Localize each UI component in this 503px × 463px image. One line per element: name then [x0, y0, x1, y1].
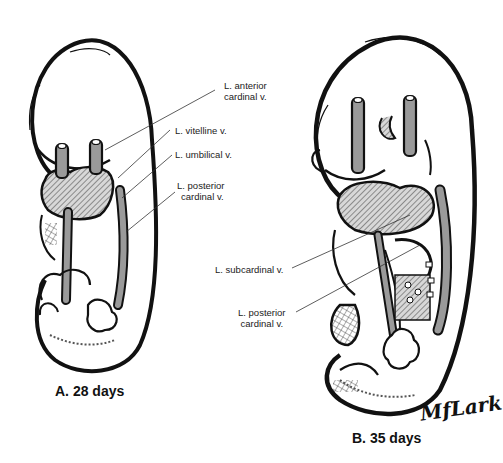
label-left-anterior-cardinal-vein: L. anterior cardinal v. — [224, 80, 267, 102]
label-left-vitelline-vein: L. vitelline v. — [175, 125, 227, 136]
label-line: cardinal v. — [177, 191, 225, 202]
label-left-subcardinal-vein: L. subcardinal v. — [215, 264, 283, 275]
label-left-posterior-cardinal-vein-b: L. posterior cardinal v. — [238, 307, 286, 329]
label-left-umbilical-vein: L. umbilical v. — [175, 149, 232, 160]
label-left-posterior-cardinal-vein-a: L. posterior cardinal v. — [177, 180, 225, 202]
caption-panel-b: B. 35 days — [352, 430, 421, 446]
caption-panel-a: A. 28 days — [55, 383, 124, 399]
embryo-b-drawing — [312, 38, 474, 414]
embryo-a-drawing — [29, 40, 156, 371]
label-line: L. posterior — [238, 307, 286, 318]
label-line: L. anterior — [224, 80, 267, 91]
label-line: cardinal v. — [238, 318, 286, 329]
label-line: L. posterior — [177, 180, 225, 191]
label-line: cardinal v. — [224, 91, 267, 102]
